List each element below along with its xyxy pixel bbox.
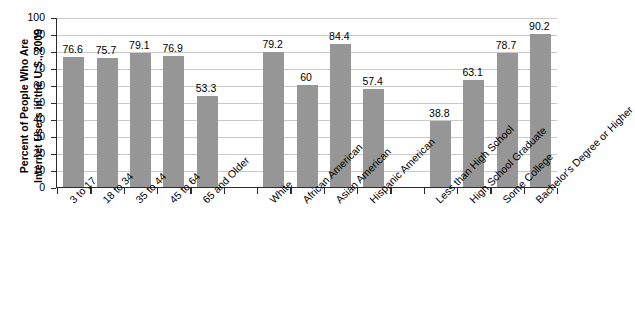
y-tick-label: 100 — [15, 11, 45, 23]
bar-value-label: 90.2 — [515, 20, 563, 32]
bar-value-label: 53.3 — [182, 82, 230, 94]
bar — [297, 85, 318, 187]
y-tick-label: 80 — [15, 45, 45, 57]
x-tick-mark — [424, 188, 425, 194]
bar-value-label: 76.9 — [149, 42, 197, 54]
bar — [130, 53, 151, 187]
bar-value-label: 38.8 — [415, 107, 463, 119]
x-tick-mark — [57, 188, 58, 194]
bar-value-label: 78.7 — [482, 39, 530, 51]
y-tick-label: 70 — [15, 62, 45, 74]
y-tick-label: 50 — [15, 96, 45, 108]
gridline — [57, 18, 557, 19]
bar — [263, 52, 284, 187]
y-tick-label: 20 — [15, 147, 45, 159]
bar — [197, 96, 218, 187]
y-tick-label: 10 — [15, 164, 45, 176]
y-tick-label: 90 — [15, 28, 45, 40]
y-tick-label: 30 — [15, 130, 45, 142]
y-tick-label: 60 — [15, 79, 45, 91]
bar-value-label: 60 — [282, 71, 330, 83]
y-tick-label: 40 — [15, 113, 45, 125]
bar-value-label: 57.4 — [349, 75, 397, 87]
y-tick-mark — [51, 188, 56, 189]
bar-value-label: 79.2 — [249, 38, 297, 50]
x-tick-mark — [257, 188, 258, 194]
bar — [163, 56, 184, 187]
bar-value-label: 63.1 — [449, 66, 497, 78]
bar-value-label: 84.4 — [315, 30, 363, 42]
bar — [63, 57, 84, 187]
gridline — [57, 35, 557, 36]
bar — [430, 121, 451, 187]
y-tick-label: 0 — [15, 181, 45, 193]
bar — [97, 58, 118, 187]
